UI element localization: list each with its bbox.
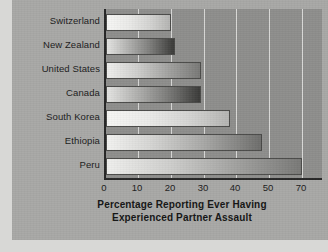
bar-canada bbox=[106, 86, 201, 103]
category-label-south-korea: South Korea bbox=[26, 111, 100, 122]
bar-row bbox=[106, 134, 262, 151]
xtick-label-70: 70 bbox=[296, 182, 307, 193]
bar-row bbox=[106, 158, 302, 175]
category-axis-labels: Switzerland New Zealand United States Ca… bbox=[26, 9, 100, 180]
bar-chart-figure: Switzerland New Zealand United States Ca… bbox=[0, 0, 328, 252]
category-label-new-zealand: New Zealand bbox=[26, 39, 100, 50]
category-label-peru: Peru bbox=[26, 159, 100, 170]
bar-south-korea bbox=[106, 110, 230, 127]
xtick-label-50: 50 bbox=[263, 182, 274, 193]
plot-area bbox=[104, 9, 322, 180]
xtick-label-30: 30 bbox=[198, 182, 209, 193]
bar-switzerland bbox=[106, 14, 171, 31]
bar-row bbox=[106, 38, 175, 55]
xtick-label-40: 40 bbox=[230, 182, 241, 193]
value-axis-tick-labels: 0 10 20 30 40 50 70 bbox=[104, 182, 322, 196]
value-axis-title: Percentage Reporting Ever Having Experie… bbox=[52, 198, 312, 224]
category-label-ethiopia: Ethiopia bbox=[26, 135, 100, 146]
category-label-switzerland: Switzerland bbox=[26, 15, 100, 26]
bar-row bbox=[106, 14, 171, 31]
bar-series bbox=[106, 9, 322, 178]
xtick-label-20: 20 bbox=[165, 182, 176, 193]
category-label-united-states: United States bbox=[26, 63, 100, 74]
bar-united-states bbox=[106, 62, 201, 79]
value-axis-title-line-2: Experienced Partner Assault bbox=[52, 211, 312, 224]
xtick-label-10: 10 bbox=[132, 182, 143, 193]
value-axis-title-line-1: Percentage Reporting Ever Having bbox=[52, 198, 312, 211]
bar-new-zealand bbox=[106, 38, 175, 55]
bar-peru bbox=[106, 158, 302, 175]
bar-row bbox=[106, 86, 201, 103]
bar-ethiopia bbox=[106, 134, 262, 151]
plot-wrapper bbox=[104, 9, 322, 180]
bar-row bbox=[106, 110, 230, 127]
bar-row bbox=[106, 62, 201, 79]
category-label-canada: Canada bbox=[26, 87, 100, 98]
xtick-label-0: 0 bbox=[101, 182, 106, 193]
chart-canvas: Switzerland New Zealand United States Ca… bbox=[12, 0, 328, 240]
